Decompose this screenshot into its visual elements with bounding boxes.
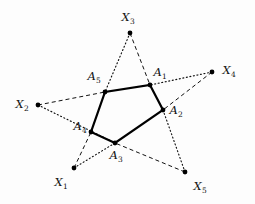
label-base-x4: X — [223, 63, 231, 77]
connector-line-x3-a5 — [105, 33, 130, 92]
label-base-x5: X — [194, 179, 202, 193]
point-marker-a5 — [103, 90, 108, 95]
point-marker-x1 — [72, 166, 77, 171]
label-subscript-a4: 4 — [82, 126, 87, 135]
connector-line-x1-a4 — [74, 132, 91, 168]
label-subscript-a3: 3 — [118, 155, 123, 164]
point-label-a4: A4 — [73, 121, 86, 133]
point-label-a5: A5 — [87, 71, 100, 83]
label-subscript-a1: 1 — [162, 72, 167, 81]
pentagon-outline — [91, 85, 163, 143]
point-label-a1: A1 — [153, 67, 166, 79]
label-base-a4: A — [73, 119, 81, 133]
connector-lines-group — [38, 33, 212, 172]
point-label-x5: X5 — [194, 181, 207, 193]
point-marker-a2 — [161, 108, 166, 113]
point-marker-x5 — [183, 170, 188, 175]
label-base-a3: A — [109, 148, 117, 162]
label-subscript-x1: 1 — [63, 182, 68, 191]
connector-line-x5-a3 — [115, 143, 185, 172]
point-label-x4: X4 — [223, 65, 236, 77]
label-subscript-x3: 3 — [130, 17, 135, 26]
label-subscript-x2: 2 — [24, 104, 29, 113]
connector-line-x2-a5 — [38, 92, 105, 105]
point-label-x1: X1 — [55, 177, 68, 189]
label-subscript-a2: 2 — [178, 110, 183, 119]
label-base-x1: X — [55, 175, 63, 189]
point-marker-x2 — [36, 103, 41, 108]
label-subscript-x4: 4 — [231, 70, 236, 79]
point-marker-a4 — [89, 130, 94, 135]
geometry-figure: A1A2A3A4A5X1X2X3X4X5 — [0, 0, 255, 204]
point-label-a3: A3 — [109, 150, 122, 162]
pentagon-group — [91, 85, 163, 143]
label-base-a5: A — [87, 69, 95, 83]
point-marker-a1 — [148, 83, 153, 88]
connector-line-x3-a1 — [130, 33, 150, 85]
label-subscript-x5: 5 — [202, 186, 207, 195]
label-base-a2: A — [169, 103, 177, 117]
connector-line-x5-a2 — [163, 110, 185, 172]
point-marker-x3 — [128, 31, 133, 36]
label-base-x3: X — [122, 10, 130, 24]
point-label-x2: X2 — [16, 99, 29, 111]
point-marker-x4 — [210, 70, 215, 75]
point-label-a2: A2 — [169, 105, 182, 117]
point-marker-a3 — [113, 141, 118, 146]
label-subscript-a5: 5 — [96, 76, 101, 85]
label-base-x2: X — [16, 97, 24, 111]
point-markers-group — [36, 31, 215, 175]
diagram-canvas — [0, 0, 255, 204]
point-label-x3: X3 — [122, 12, 135, 24]
label-base-a1: A — [153, 65, 161, 79]
